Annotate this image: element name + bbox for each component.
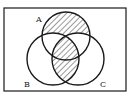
label-b: B (24, 80, 30, 89)
label-c: C (100, 80, 106, 89)
label-a: A (35, 15, 42, 24)
venn-diagram: A B C (0, 0, 133, 98)
